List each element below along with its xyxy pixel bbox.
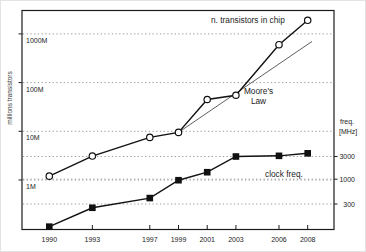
moores-law-figure: 1M10M100M1000M30001000300199019931997199…	[0, 0, 366, 252]
x-tick-label: 2003	[228, 236, 244, 243]
transistors-marker	[305, 17, 311, 23]
x-tick-label: 2008	[300, 236, 316, 243]
clock-freq-marker	[46, 223, 53, 230]
moores-law-label-line1: Moore's	[244, 86, 273, 96]
transistors-marker	[147, 134, 153, 140]
transistors-marker	[276, 42, 282, 48]
left-axis-title: millions transistors	[6, 71, 13, 125]
right-tick-label: 3000	[339, 153, 355, 160]
transistors-line	[49, 20, 307, 176]
transistors-marker	[89, 153, 95, 159]
clock-freq-marker	[233, 153, 240, 160]
right-tick-label: 300	[343, 201, 355, 208]
right-tick-label: 1000	[339, 176, 355, 183]
x-tick-label: 1997	[142, 236, 158, 243]
plot-frame	[22, 11, 334, 230]
clock-freq-marker	[304, 150, 311, 157]
x-tick-label: 2006	[271, 236, 287, 243]
clock-freq-marker	[89, 204, 96, 211]
clock-freq-line	[49, 153, 307, 226]
left-tick-label: 1000M	[26, 37, 48, 44]
moores-law-label-line2: Law	[251, 96, 267, 106]
clock-freq-series-label: clock freq.	[265, 169, 303, 179]
transistors-series-label: n. transistors in chip	[211, 15, 285, 25]
clock-freq-marker	[175, 177, 182, 184]
right-axis-title-mhz: [MHz]	[339, 128, 357, 136]
transistors-marker	[175, 129, 181, 135]
left-tick-label: 1M	[26, 183, 36, 190]
x-tick-label: 1999	[171, 236, 187, 243]
x-tick-label: 1993	[85, 236, 101, 243]
left-tick-label: 100M	[26, 86, 44, 93]
clock-freq-marker	[146, 195, 153, 202]
clock-freq-marker	[276, 153, 283, 160]
dual-axis-log-line-chart: 1M10M100M1000M30001000300199019931997199…	[1, 1, 366, 252]
transistors-marker	[46, 173, 52, 179]
left-tick-label: 10M	[26, 134, 40, 141]
x-tick-label: 2001	[199, 236, 215, 243]
transistors-marker	[233, 92, 239, 98]
transistors-marker	[204, 96, 210, 102]
right-axis-title-freq: freq.	[340, 118, 354, 126]
x-tick-label: 1990	[42, 236, 58, 243]
clock-freq-marker	[204, 169, 211, 176]
